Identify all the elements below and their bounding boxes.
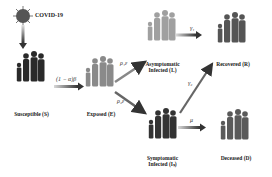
rate-e-to-ia: ρ₁ε bbox=[120, 60, 127, 66]
asymptomatic-label: Asymptomatic Infected (Iₐ) bbox=[140, 61, 185, 73]
edge-covid-to-susceptible bbox=[19, 25, 27, 49]
edge-symptomatic-to-deceased bbox=[178, 124, 206, 132]
node-exposed-icon bbox=[86, 56, 114, 87]
node-symptomatic-icon bbox=[149, 108, 177, 139]
edge-asymptomatic-to-recovered bbox=[176, 31, 202, 39]
covid-label: COVID-19 bbox=[35, 12, 63, 18]
rate-is-to-d: μ bbox=[190, 117, 193, 123]
diagram-canvas bbox=[0, 0, 272, 177]
node-deceased-icon bbox=[221, 109, 249, 140]
node-recovered-icon bbox=[218, 12, 246, 43]
virus-icon bbox=[13, 6, 33, 26]
rate-ia-to-r: γ₁ bbox=[190, 25, 194, 31]
rate-e-to-is: ρ₂ε bbox=[117, 98, 124, 104]
rate-s-to-e: (1 − α)β bbox=[56, 76, 76, 82]
recovered-label: Recovered (R) bbox=[208, 61, 258, 67]
node-asymptomatic-icon bbox=[148, 10, 176, 41]
rate-is-to-r: γ₂ bbox=[188, 80, 192, 86]
edge-susceptible-to-exposed bbox=[54, 83, 84, 91]
susceptible-label: Susceptible (S) bbox=[4, 111, 59, 117]
deceased-label: Deceased (D) bbox=[212, 155, 260, 161]
node-susceptible-icon bbox=[17, 51, 45, 82]
symptomatic-label: Symptomatic Infected (Iₛ) bbox=[140, 155, 185, 167]
exposed-label: Exposed (E) bbox=[76, 111, 126, 117]
asymptomatic-label-line2: Infected (Iₐ) bbox=[140, 67, 185, 73]
symptomatic-label-line2: Infected (Iₛ) bbox=[140, 161, 185, 167]
